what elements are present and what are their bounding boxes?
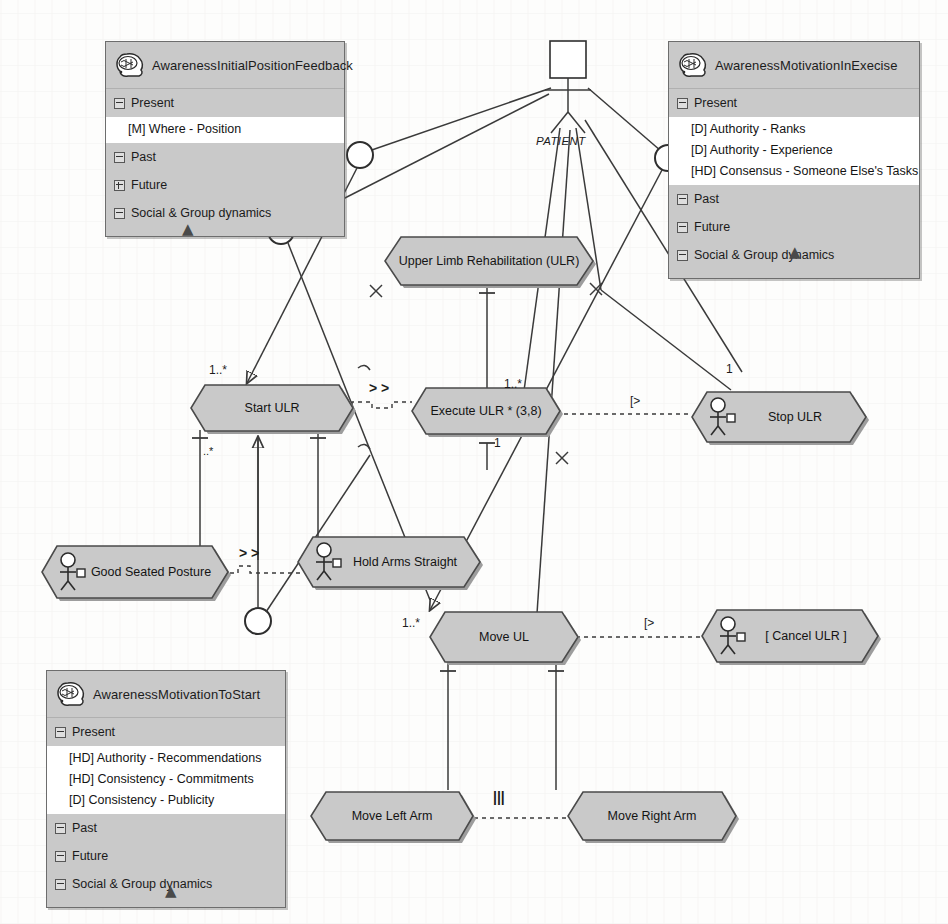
panel-title: AwarenessMotivationInExecise (715, 58, 897, 73)
list-item[interactable]: [HD] Consensus - Someone Else's Tasks (669, 161, 919, 182)
use-case-stop-ulr[interactable]: Stop ULR (690, 390, 868, 444)
section-present[interactable]: Present (106, 88, 344, 117)
expander-icon[interactable] (677, 250, 688, 261)
node-shape (383, 235, 595, 287)
section-future[interactable]: Future (47, 842, 285, 870)
stereotype-include-posture-arms: > > (239, 546, 259, 560)
use-case-start-ulr[interactable]: Start ULR (189, 383, 355, 433)
expander-icon[interactable] (114, 152, 125, 163)
expander-icon[interactable] (55, 879, 66, 890)
actor-icon (56, 552, 90, 592)
brain-icon (55, 680, 85, 708)
node-shape (428, 610, 580, 664)
list-item[interactable]: [HD] Consistency - Commitments (47, 769, 285, 790)
expander-icon[interactable] (114, 98, 125, 109)
multiplicity-move-ul: 1..* (402, 617, 420, 629)
section-label: Future (72, 849, 108, 863)
awareness-panel-initial-position-feedback[interactable]: AwarenessInitialPositionFeedback Present… (105, 41, 345, 237)
use-case-good-seated-posture[interactable]: Good Seated Posture (40, 544, 230, 600)
multiplicity-execute-ulr-right: 1..* (504, 378, 522, 390)
use-case-cancel-ulr[interactable]: [ Cancel ULR ] (700, 608, 880, 664)
section-past[interactable]: Past (106, 143, 344, 171)
assoc-patient-moveul (536, 130, 570, 628)
actor-icon (312, 542, 346, 582)
section-label: Present (694, 96, 737, 110)
interrupt-label-cancel-ulr: [> (644, 617, 654, 629)
multiplicity-execute-ulr-bottom: 1 (494, 437, 501, 449)
expander-icon[interactable] (677, 194, 688, 205)
section-label: Future (131, 178, 167, 192)
section-past[interactable]: Past (669, 185, 919, 213)
section-label: Present (72, 725, 115, 739)
interrupt-label-stop-ulr: [> (630, 395, 640, 407)
section-label: Social & Group dynamics (72, 877, 212, 891)
section-future[interactable]: Future (669, 213, 919, 241)
node-shape (189, 383, 355, 433)
brain-icon (677, 51, 707, 79)
use-case-move-left-arm[interactable]: Move Left Arm (309, 790, 475, 842)
section-label: Past (131, 150, 156, 164)
panel-header: AwarenessInitialPositionFeedback (106, 42, 344, 88)
chevron-up-double-icon[interactable]: ▲ (165, 884, 177, 899)
awareness-panel-motivation-to-start[interactable]: AwarenessMotivationToStart Present [HD] … (46, 670, 286, 908)
section-present[interactable]: Present (47, 717, 285, 746)
use-case-move-ul[interactable]: Move UL (428, 610, 580, 664)
use-case-hold-arms-straight[interactable]: Hold Arms Straight (296, 535, 482, 589)
actor-label-patient: PATIENT (536, 136, 586, 148)
present-items: [M] Where - Position (106, 117, 344, 143)
use-case-upper-limb-rehabilitation[interactable]: Upper Limb Rehabilitation (ULR) (383, 235, 595, 287)
present-items: [D] Authority - Ranks [D] Authority - Ex… (669, 117, 919, 185)
actor-icon (706, 397, 740, 437)
panel-title: AwarenessInitialPositionFeedback (152, 58, 353, 73)
section-label: Past (72, 821, 97, 835)
section-past[interactable]: Past (47, 814, 285, 842)
brain-icon (114, 51, 144, 79)
panel-title: AwarenessMotivationToStart (93, 687, 260, 702)
use-case-move-right-arm[interactable]: Move Right Arm (566, 790, 738, 842)
node-shape (309, 790, 475, 842)
section-label: Future (694, 220, 730, 234)
expander-icon[interactable] (677, 222, 688, 233)
stereotype-include-start-execute: > > (369, 381, 389, 395)
edge-include-posture-arms (222, 566, 300, 573)
multiplicity-start-ulr: 1..* (209, 364, 227, 376)
panel-footer (669, 269, 919, 278)
list-item[interactable]: [D] Consistency - Publicity (47, 790, 285, 811)
section-label: Social & Group dynamics (131, 206, 271, 220)
list-item[interactable]: [D] Authority - Ranks (669, 119, 919, 140)
assoc-patient-right-1 (588, 88, 668, 157)
section-label: Past (694, 192, 719, 206)
assoc-patient-left-1 (366, 88, 551, 152)
expander-icon[interactable] (55, 823, 66, 834)
present-items: [HD] Authority - Recommendations [HD] Co… (47, 746, 285, 814)
expander-icon[interactable] (677, 98, 688, 109)
panel-footer (106, 227, 344, 236)
chevron-up-double-icon[interactable]: ▲ (789, 245, 801, 260)
panel-header: AwarenessMotivationInExecise (669, 42, 919, 88)
section-label: Social & Group dynamics (694, 248, 834, 262)
actor-icon (716, 616, 750, 656)
panel-header: AwarenessMotivationToStart (47, 671, 285, 717)
expander-icon[interactable] (114, 180, 125, 191)
list-item[interactable]: [M] Where - Position (106, 119, 344, 140)
list-item[interactable]: [HD] Authority - Recommendations (47, 748, 285, 769)
expander-icon[interactable] (55, 727, 66, 738)
connector-node-1 (347, 142, 373, 168)
actor-patient-glyph (545, 41, 591, 133)
list-item[interactable]: [D] Authority - Experience (669, 140, 919, 161)
expander-icon[interactable] (55, 851, 66, 862)
node-shape (410, 386, 562, 436)
assoc-patient-stop (601, 290, 731, 390)
section-label: Present (131, 96, 174, 110)
expander-icon[interactable] (114, 208, 125, 219)
section-future[interactable]: Future (106, 171, 344, 199)
multiplicity-start-ulr-bottom: ..* (203, 446, 213, 457)
chevron-up-double-icon[interactable]: ▲ (182, 222, 194, 237)
section-social-group-dynamics[interactable]: Social & Group dynamics (106, 199, 344, 227)
use-case-execute-ulr[interactable]: Execute ULR * (3,8) (410, 386, 562, 436)
parallel-marker-arms: ||| (493, 790, 505, 804)
node-shape (566, 790, 738, 842)
connector-node-4 (245, 608, 271, 634)
section-present[interactable]: Present (669, 88, 919, 117)
multiplicity-stop-ulr: 1 (726, 363, 733, 375)
